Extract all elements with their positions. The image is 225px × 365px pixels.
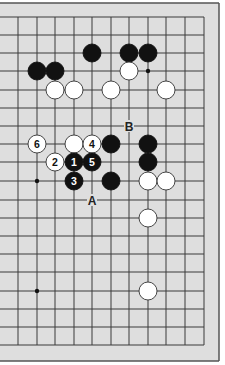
white-stone bbox=[65, 135, 83, 153]
white-stone bbox=[139, 209, 157, 227]
move-number: 3 bbox=[71, 175, 77, 187]
black-stone bbox=[120, 44, 138, 62]
move-number: 4 bbox=[89, 138, 95, 150]
white-stone bbox=[157, 172, 175, 190]
white-stone bbox=[139, 282, 157, 300]
point-label-b: B bbox=[125, 120, 134, 134]
move-number: 6 bbox=[34, 138, 40, 150]
black-stone bbox=[102, 172, 120, 190]
white-stone bbox=[46, 81, 64, 99]
black-stone bbox=[83, 44, 101, 62]
star-point bbox=[35, 179, 39, 183]
move-number: 2 bbox=[52, 156, 58, 168]
black-stone bbox=[102, 135, 120, 153]
white-stone bbox=[120, 62, 138, 80]
point-label-a: A bbox=[88, 194, 97, 208]
white-stone bbox=[65, 81, 83, 99]
black-stone bbox=[139, 44, 157, 62]
star-point bbox=[146, 69, 150, 73]
black-stone bbox=[139, 135, 157, 153]
move-number: 5 bbox=[89, 156, 95, 168]
black-stone bbox=[46, 62, 64, 80]
white-stone bbox=[139, 172, 157, 190]
white-stone bbox=[102, 81, 120, 99]
white-stone bbox=[157, 81, 175, 99]
go-board-diagram: AB 642153 bbox=[0, 0, 225, 365]
black-stone bbox=[139, 153, 157, 171]
star-point bbox=[35, 289, 39, 293]
black-stone bbox=[28, 62, 46, 80]
move-number: 1 bbox=[71, 156, 77, 168]
